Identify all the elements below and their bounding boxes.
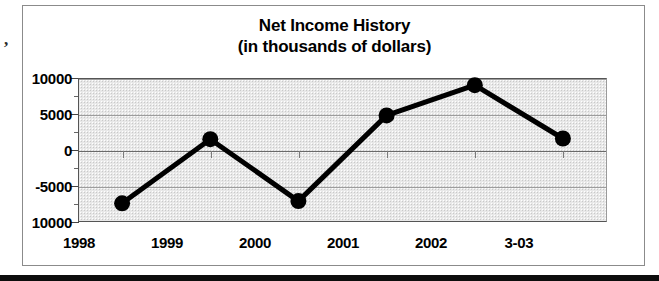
x-tick-3-03 <box>563 151 564 158</box>
gridline-neg5000 <box>79 187 606 188</box>
x-axis-label-1999: 1999 <box>124 235 210 251</box>
y-axis-label-0: 0 <box>14 143 72 158</box>
x-axis-label-2002: 2002 <box>388 235 474 251</box>
gridline-10000 <box>79 79 606 80</box>
x-axis-label-1998: 1998 <box>36 235 122 251</box>
chart-title: Net Income History (in thousands of doll… <box>23 15 646 57</box>
plot-area <box>78 78 607 222</box>
chart-subtitle: (in thousands of dollars) <box>23 36 646 57</box>
x-tick-2000 <box>299 151 300 158</box>
x-tick-1998 <box>123 151 124 158</box>
y-tick-neg10000 <box>71 222 79 223</box>
y-axis-label-neg10000: 10000 <box>14 215 72 230</box>
y-axis-label-10000: 10000 <box>14 71 72 86</box>
x-tick-1999 <box>211 151 212 158</box>
y-axis-label-5000: 5000 <box>14 107 72 122</box>
x-tick-2002 <box>475 151 476 158</box>
scan-artifact-mark: , <box>4 34 11 45</box>
x-axis-label-2001: 2001 <box>300 235 386 251</box>
chart-title-line1: Net Income History <box>259 16 410 35</box>
x-tick-2001 <box>387 151 388 158</box>
y-axis-label-neg5000: -5000 <box>14 179 72 194</box>
gridline-5000 <box>79 115 606 116</box>
x-axis-label-2000: 2000 <box>212 235 298 251</box>
gridline-zero <box>79 151 606 152</box>
x-axis-label-3-03: 3-03 <box>476 235 562 251</box>
page-edge-band <box>0 275 659 281</box>
